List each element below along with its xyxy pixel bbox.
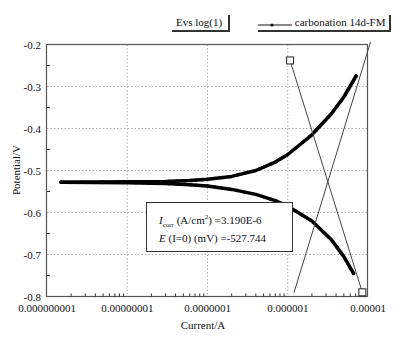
icorr-subscript: corr	[163, 221, 174, 229]
y-tick-label: -0.3	[24, 81, 42, 93]
data-point	[213, 177, 216, 180]
square-marker	[287, 57, 294, 64]
data-point	[263, 196, 266, 199]
data-point	[352, 272, 355, 275]
x-tick-labels: 0.0000000010.000000010.00000010.0000010.…	[18, 302, 386, 314]
grid-lines	[47, 45, 368, 297]
data-point	[206, 184, 209, 187]
data-point	[221, 176, 224, 179]
y-tick-labels: -0.2-0.3-0.4-0.5-0.6-0.7-0.8	[24, 39, 42, 303]
square-marker	[359, 289, 366, 296]
data-point	[236, 173, 239, 176]
legend: carbonation 14d-FM	[258, 15, 391, 32]
y-axis-title: Potential/V	[10, 145, 22, 195]
data-point	[206, 178, 209, 181]
y-tick-label: -0.5	[24, 165, 42, 177]
ecorr-value: (I=0) (mV) =-527.744	[166, 232, 266, 244]
data-point	[351, 81, 354, 84]
data-point	[158, 182, 161, 185]
icorr-line: Icorr (A/cm2) =3.190E-6	[159, 211, 292, 232]
data-point	[200, 178, 203, 181]
data-point	[327, 115, 330, 118]
data-point	[250, 192, 253, 195]
data-point	[327, 235, 330, 238]
data-point	[257, 194, 260, 197]
y-tick-label: -0.7	[24, 249, 42, 261]
data-point	[195, 178, 198, 181]
data-point	[146, 181, 149, 184]
chart-title-box: Evs log(1)	[172, 15, 230, 32]
x-axis-title: Current/A	[181, 319, 226, 331]
data-point	[243, 190, 246, 193]
data-point	[189, 179, 192, 182]
data-point	[321, 122, 324, 125]
data-point	[59, 181, 62, 184]
data-point	[275, 160, 278, 163]
data-point	[269, 198, 272, 201]
data-point	[134, 181, 137, 184]
data-point	[301, 141, 304, 144]
data-point	[332, 110, 335, 113]
y-tick-label: -0.2	[24, 39, 41, 51]
data-point	[189, 183, 192, 186]
ecorr-symbol: E	[159, 232, 166, 244]
x-tick-label: 0.00000001	[101, 302, 153, 314]
tafel-fit-line	[290, 61, 362, 293]
data-point	[293, 147, 296, 150]
data-point	[293, 209, 296, 212]
data-point	[349, 267, 352, 270]
data-point	[339, 251, 342, 254]
x-tick-label: 0.00001	[350, 302, 386, 314]
data-point	[200, 184, 203, 187]
data-point	[168, 182, 171, 185]
series-layer	[59, 42, 370, 295]
data-point	[195, 184, 198, 187]
data-point	[236, 189, 239, 192]
data-point	[182, 179, 185, 182]
data-point	[175, 182, 178, 185]
data-point	[308, 218, 311, 221]
data-point	[301, 214, 304, 217]
data-point	[308, 135, 311, 138]
chart-title: Evs log(1)	[176, 16, 222, 28]
corrosion-annotation-box: Icorr (A/cm2) =3.190E-6 E (I=0) (mV) =-5…	[146, 202, 293, 252]
y-tick-label: -0.4	[24, 123, 42, 135]
data-point	[346, 261, 349, 264]
data-point	[347, 87, 350, 90]
data-point	[335, 246, 338, 249]
data-point	[243, 172, 246, 175]
data-point	[213, 185, 216, 188]
data-point	[339, 99, 342, 102]
data-point	[343, 94, 346, 97]
icorr-units: (A/cm	[174, 214, 205, 226]
data-point	[228, 175, 231, 178]
data-point	[335, 104, 338, 107]
data-point	[278, 157, 281, 160]
data-point	[228, 187, 231, 190]
y-tick-label: -0.6	[24, 207, 42, 219]
data-point	[175, 179, 178, 182]
data-point	[250, 170, 253, 173]
x-tick-label: 0.0000001	[184, 302, 231, 314]
icorr-value: ) =3.190E-6	[208, 214, 261, 226]
data-point	[100, 181, 103, 184]
data-point	[263, 165, 266, 168]
ecorr-line: E (I=0) (mV) =-527.744	[159, 232, 292, 245]
data-point	[120, 181, 123, 184]
tafel-plot: -0.2-0.3-0.4-0.5-0.6-0.7-0.8 0.000000001…	[0, 0, 400, 347]
data-point	[269, 162, 272, 165]
x-tick-label: 0.000001	[267, 302, 308, 314]
data-point	[332, 241, 335, 244]
legend-label: carbonation 14d-FM	[295, 16, 386, 28]
plot-frame	[47, 45, 368, 297]
data-point	[221, 186, 224, 189]
data-point	[80, 181, 83, 184]
data-point	[257, 168, 260, 171]
x-tick-label: 0.000000001	[18, 302, 76, 314]
legend-line-icon	[258, 17, 292, 29]
data-point	[315, 128, 318, 131]
data-point	[354, 74, 357, 77]
data-point	[182, 183, 185, 186]
data-point	[282, 155, 285, 158]
data-point	[286, 153, 289, 156]
